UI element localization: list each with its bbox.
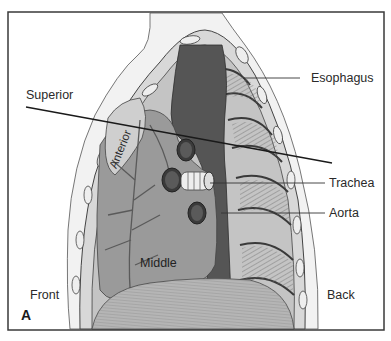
label-superior: Superior <box>26 89 73 102</box>
trachea-structure <box>181 172 214 190</box>
label-middle: Middle <box>140 257 177 270</box>
label-esophagus: Esophagus <box>311 72 374 85</box>
label-aorta: Aorta <box>329 207 359 220</box>
label-back: Back <box>327 289 355 302</box>
panel-letter: A <box>21 308 31 322</box>
label-trachea: Trachea <box>329 177 374 190</box>
label-front: Front <box>30 289 59 302</box>
mediastinum-diagram: Superior Anterior Middle Front Back Esop… <box>0 0 391 341</box>
